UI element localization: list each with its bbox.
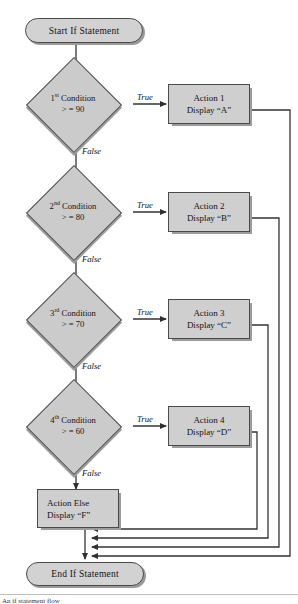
ordinal-suffix-4: th bbox=[55, 414, 60, 420]
process-action-2[interactable]: Action 2 Display “B” bbox=[168, 192, 250, 232]
process-action-1-line1: Action 1 bbox=[193, 92, 224, 104]
process-action-3-line1: Action 3 bbox=[193, 307, 224, 319]
edge-label-false-2: False bbox=[82, 254, 101, 264]
end-terminator[interactable]: End If Statement bbox=[26, 562, 144, 586]
decision-condition-2-label: 2nd Condition > = 80 bbox=[50, 201, 97, 223]
start-terminator[interactable]: Start If Statement bbox=[25, 18, 143, 43]
condition-3-value: > = 70 bbox=[62, 319, 85, 329]
ordinal-suffix-1: st bbox=[55, 92, 59, 98]
process-action-else-line2: Display “F” bbox=[47, 509, 90, 521]
decision-condition-3[interactable]: 3rd Condition > = 70 bbox=[40, 286, 106, 352]
flowchart-canvas: Start If Statement 1st Condition > = 90 … bbox=[0, 0, 298, 604]
process-action-4-line1: Action 4 bbox=[193, 414, 224, 426]
decision-condition-1[interactable]: 1st Condition > = 90 bbox=[40, 71, 106, 137]
ordinal-suffix-2: nd bbox=[54, 200, 60, 206]
condition-1-text: Condition bbox=[61, 93, 95, 103]
process-action-4[interactable]: Action 4 Display “D” bbox=[168, 406, 250, 446]
return-path-action-2 bbox=[92, 218, 279, 547]
process-action-1-line2: Display “A” bbox=[187, 104, 232, 116]
edge-label-false-4: False bbox=[82, 468, 101, 478]
process-action-1[interactable]: Action 1 Display “A” bbox=[168, 84, 250, 124]
process-action-2-line2: Display “B” bbox=[187, 212, 231, 224]
ordinal-suffix-3: rd bbox=[54, 307, 59, 313]
decision-condition-2[interactable]: 2nd Condition > = 80 bbox=[40, 179, 106, 245]
condition-2-value: > = 80 bbox=[62, 212, 85, 222]
decision-condition-4-label: 4th Condition > = 60 bbox=[50, 415, 96, 437]
edge-label-true-2: True bbox=[137, 200, 153, 210]
condition-4-value: > = 60 bbox=[62, 426, 85, 436]
edge-label-true-4: True bbox=[137, 414, 153, 424]
condition-4-text: Condition bbox=[61, 415, 95, 425]
process-action-3[interactable]: Action 3 Display “C” bbox=[168, 299, 250, 339]
figure-caption: An if statement flow bbox=[2, 597, 60, 604]
process-action-4-line2: Display “D” bbox=[187, 426, 232, 438]
edge-label-false-1: False bbox=[82, 146, 101, 156]
condition-3-text: Condition bbox=[62, 308, 96, 318]
edge-label-false-3: False bbox=[82, 361, 101, 371]
condition-2-text: Condition bbox=[62, 201, 96, 211]
process-action-2-line1: Action 2 bbox=[193, 200, 224, 212]
process-action-else-line1: Action Else bbox=[47, 497, 89, 509]
decision-condition-1-label: 1st Condition > = 90 bbox=[51, 93, 96, 115]
decision-condition-4[interactable]: 4th Condition > = 60 bbox=[40, 393, 106, 459]
process-action-else[interactable]: Action Else Display “F” bbox=[37, 489, 119, 528]
start-terminator-label: Start If Statement bbox=[49, 26, 120, 36]
edge-label-true-3: True bbox=[137, 307, 153, 317]
edge-label-true-1: True bbox=[137, 92, 153, 102]
condition-1-value: > = 90 bbox=[62, 104, 85, 114]
decision-condition-3-label: 3rd Condition > = 70 bbox=[50, 308, 96, 330]
end-terminator-label: End If Statement bbox=[51, 569, 119, 579]
caption-divider bbox=[0, 594, 298, 595]
process-action-3-line2: Display “C” bbox=[187, 319, 231, 331]
